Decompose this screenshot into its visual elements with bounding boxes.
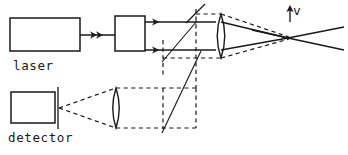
figure-root: v laser detector <box>0 0 348 155</box>
receiving-fold-mirror <box>162 51 201 133</box>
beam-combining-mirror <box>162 21 197 62</box>
beam-splitter-box <box>115 16 145 51</box>
detector-box <box>11 92 55 123</box>
detector-label: detector <box>8 130 73 145</box>
collection-ray-upper <box>59 88 116 108</box>
transmitting-lens <box>217 14 225 58</box>
ldv-optical-diagram: v laser detector <box>0 0 348 155</box>
converging-envelope-upper <box>221 14 289 37</box>
collection-ray-lower <box>59 108 116 128</box>
diverging-ray-lower <box>288 38 344 50</box>
laser-source-box <box>10 18 80 51</box>
velocity-symbol-label: v <box>293 3 301 18</box>
converging-ray-lower <box>221 38 288 50</box>
laser-label: laser <box>13 58 54 73</box>
back-ray-upper-left <box>252 30 288 38</box>
diverging-ray-upper <box>288 27 344 38</box>
receiving-lens <box>113 88 120 128</box>
